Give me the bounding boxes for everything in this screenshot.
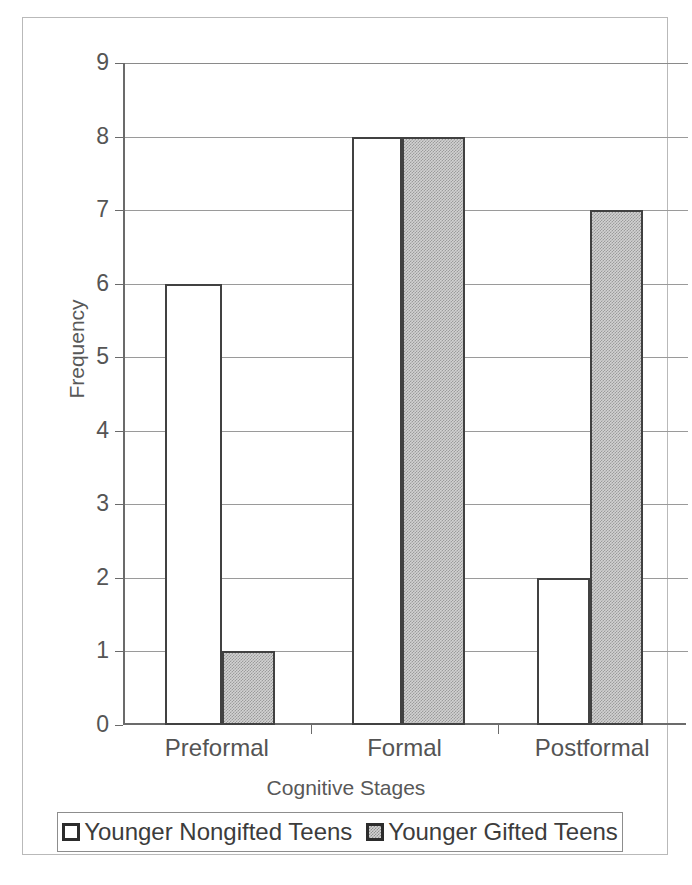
- plot-area: [123, 63, 686, 725]
- legend-swatch-gifted-icon: [366, 823, 384, 841]
- chart-legend: Younger Nongifted TeensYounger Gifted Te…: [57, 812, 623, 852]
- x-axis-tick: [311, 725, 312, 734]
- bar-postformal-nongifted: [537, 578, 590, 725]
- y-axis-tick: [115, 210, 123, 211]
- legend-entry-gifted[interactable]: Younger Gifted Teens: [366, 819, 618, 845]
- y-axis-tick: [115, 357, 123, 358]
- y-axis-tick: [115, 651, 123, 652]
- y-axis-tick-label: 5: [79, 345, 109, 368]
- chart-frame: Frequency 0123456789 PreformalFormalPost…: [22, 17, 668, 855]
- y-axis-tick: [115, 284, 123, 285]
- gridline: [125, 63, 688, 64]
- legend-swatch-nongifted-icon: [62, 823, 80, 841]
- y-axis-tick: [115, 63, 123, 64]
- y-axis-tick: [115, 504, 123, 505]
- y-axis-tick-label: 3: [79, 492, 109, 515]
- bar-formal-nongifted: [352, 137, 402, 725]
- y-axis-tick-label: 0: [79, 713, 109, 736]
- x-axis-tick: [498, 725, 499, 734]
- y-axis-tick: [115, 431, 123, 432]
- y-axis-tick-label: 6: [79, 272, 109, 295]
- y-axis-tick-label: 2: [79, 566, 109, 589]
- y-axis-tick: [115, 137, 123, 138]
- bar-postformal-gifted: [590, 210, 643, 725]
- y-axis-tick-label: 8: [79, 125, 109, 148]
- y-axis-tick-label: 9: [79, 51, 109, 74]
- legend-entry-nongifted[interactable]: Younger Nongifted Teens: [62, 819, 352, 845]
- bar-formal-gifted: [402, 137, 465, 725]
- y-axis-tick: [115, 725, 123, 726]
- x-axis-title: Cognitive Stages: [23, 775, 669, 800]
- y-axis-tick-label: 1: [79, 639, 109, 662]
- legend-label: Younger Gifted Teens: [388, 819, 618, 845]
- y-axis-tick: [115, 578, 123, 579]
- x-axis-label-postformal: Postformal: [482, 734, 692, 762]
- y-axis-tick-label: 4: [79, 419, 109, 442]
- bar-preformal-gifted: [222, 651, 275, 725]
- legend-label: Younger Nongifted Teens: [84, 819, 352, 845]
- y-axis-tick-label: 7: [79, 198, 109, 221]
- bar-preformal-nongifted: [165, 284, 222, 725]
